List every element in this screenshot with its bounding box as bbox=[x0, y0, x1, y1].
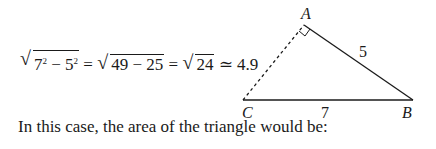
vertex-label-a: A bbox=[300, 5, 311, 22]
vertex-label-b: B bbox=[402, 104, 412, 121]
side-ac-dashed bbox=[243, 25, 304, 100]
caption-text: In this case, the area of the triangle w… bbox=[18, 117, 328, 137]
side-label-ab: 5 bbox=[359, 43, 367, 60]
side-ab bbox=[304, 25, 413, 100]
